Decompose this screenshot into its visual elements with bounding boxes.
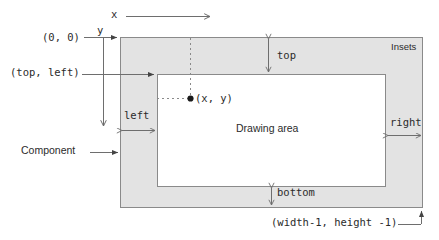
- right-inset-label: right: [390, 117, 422, 128]
- origin-label: (0, 0): [42, 32, 80, 43]
- x-axis-label: x: [111, 9, 117, 20]
- y-axis-label: y: [97, 25, 103, 36]
- top-left-label: (top, left): [10, 67, 80, 78]
- drawing-area-label: Drawing area: [236, 123, 298, 134]
- insets-diagram: x y (0, 0) (top, left) (x, y) left top r…: [0, 0, 439, 240]
- point-marker: [187, 95, 193, 101]
- left-inset-label: left: [124, 110, 149, 121]
- insets-region-label: Insets: [391, 42, 416, 52]
- bottom-inset-label: bottom: [277, 187, 315, 198]
- top-inset-label: top: [277, 50, 296, 61]
- bottom-right-label: (width-1, height -1): [271, 217, 397, 228]
- component-label: Component: [21, 145, 75, 156]
- point-label: (x, y): [195, 93, 233, 104]
